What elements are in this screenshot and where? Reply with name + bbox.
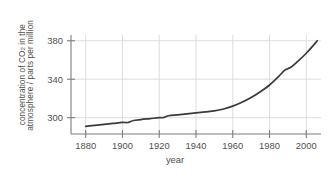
co2-data-line bbox=[86, 41, 318, 127]
x-tick-label: 1880 bbox=[75, 140, 96, 151]
gridlines-group bbox=[71, 35, 321, 134]
x-tick-label: 2000 bbox=[296, 140, 317, 151]
y-tick-labels-group: 300340380 bbox=[47, 35, 63, 123]
x-tick-label: 1940 bbox=[186, 140, 207, 151]
plot-area: 300340380 1880190019201940196019802000 y… bbox=[0, 0, 328, 178]
co2-concentration-line-chart: concentration of CO2 in the atmosphere /… bbox=[0, 0, 328, 178]
x-tick-label: 1920 bbox=[149, 140, 170, 151]
x-tick-label: 1900 bbox=[112, 140, 133, 151]
y-tick-label: 300 bbox=[47, 112, 63, 123]
y-tick-label: 380 bbox=[47, 35, 63, 46]
tick-marks-group bbox=[67, 41, 306, 138]
y-tick-label: 340 bbox=[47, 74, 63, 85]
x-tick-label: 1960 bbox=[222, 140, 243, 151]
x-tick-label: 1980 bbox=[259, 140, 280, 151]
x-tick-labels-group: 1880190019201940196019802000 bbox=[75, 140, 316, 151]
x-axis-title: year bbox=[166, 154, 184, 165]
